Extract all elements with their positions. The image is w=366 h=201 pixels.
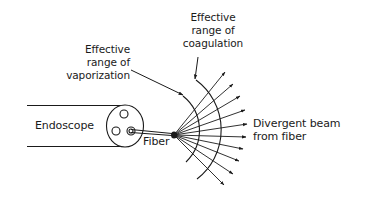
beam-label-line2: from fiber: [253, 130, 340, 143]
endoscope-label: Endoscope: [35, 119, 94, 132]
vaporization-label: Effective range of vaporization: [58, 43, 130, 82]
endoscope-tip-face: [107, 105, 144, 147]
coagulation-label-line2: range of: [172, 24, 254, 37]
label-arrows: [131, 57, 198, 95]
vaporization-label-line3: vaporization: [58, 69, 130, 82]
coagulation-label-line3: coagulation: [172, 37, 254, 50]
divergent-beam-label: Divergent beam from fiber: [253, 117, 340, 143]
fiber-label: Fiber: [143, 135, 169, 148]
vaporization-pointer: [131, 70, 183, 95]
coagulation-pointer: [195, 57, 198, 79]
vaporization-label-line1: Effective: [58, 43, 130, 56]
coagulation-label: Effective range of coagulation: [172, 11, 254, 50]
coagulation-label-line1: Effective: [172, 11, 254, 24]
vaporization-label-line2: range of: [58, 56, 130, 69]
beam-rays: [174, 72, 247, 185]
beam-label-line1: Divergent beam: [253, 117, 340, 130]
